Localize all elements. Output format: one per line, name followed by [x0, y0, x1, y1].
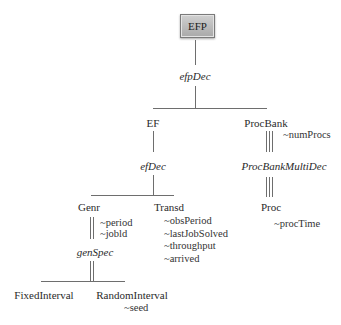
node-fixedinterval: FixedInterval — [14, 289, 73, 301]
double-line — [93, 261, 94, 281]
connector-line — [153, 175, 154, 195]
variable-obsperiod: ~obsPeriod — [164, 215, 212, 227]
variable-numprocs: ~numProcs — [283, 129, 331, 141]
root-node-efp: EFP — [180, 14, 215, 38]
variable-arrived: ~arrived — [164, 253, 199, 265]
decomposition-procbankmultidec: ProcBankMultiDec — [241, 160, 326, 172]
node-proc: Proc — [261, 201, 281, 213]
variable-jobld: ~jobld — [100, 228, 127, 240]
decomposition-efdec: efDec — [140, 160, 166, 172]
node-transd: Transd — [154, 201, 184, 213]
branch-line — [91, 195, 174, 196]
variable-lastjobsolved: ~lastJobSolved — [164, 228, 228, 240]
multi-line — [272, 131, 273, 152]
multi-line — [269, 177, 270, 197]
decomposition-efpdec: efpDec — [179, 70, 210, 82]
node-procbank: ProcBank — [244, 117, 287, 129]
node-randominterval: RandomInterval — [96, 289, 167, 301]
multi-line — [272, 177, 273, 197]
connector-line — [195, 86, 196, 108]
connector-line — [153, 131, 154, 152]
multi-line — [266, 131, 267, 152]
multi-line — [266, 177, 267, 197]
variable-seed: ~seed — [124, 302, 148, 314]
decomposition-genspec: genSpec — [77, 246, 114, 258]
node-genr: Genr — [78, 201, 100, 213]
variable-proctime: ~procTime — [274, 218, 320, 230]
double-line — [90, 217, 91, 239]
branch-line — [153, 108, 267, 109]
connector-line — [195, 40, 196, 65]
branch-line — [41, 281, 125, 282]
node-ef: EF — [147, 117, 160, 129]
double-line — [90, 261, 91, 281]
double-line — [93, 217, 94, 239]
variable-throughput: ~throughput — [164, 240, 216, 252]
root-node-label: EFP — [188, 20, 207, 32]
multi-line — [269, 131, 270, 152]
